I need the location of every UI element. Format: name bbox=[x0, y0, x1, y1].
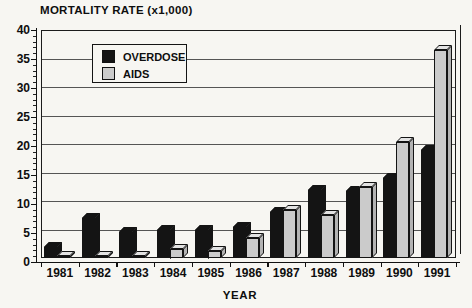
aids-swatch bbox=[102, 67, 115, 80]
bar-overdose-1982 bbox=[82, 218, 95, 258]
y-tick-label-30: 30 bbox=[4, 81, 30, 95]
bar-aids-1988 bbox=[321, 215, 334, 258]
bar-aids-1985 bbox=[208, 251, 221, 258]
y-minor-tick bbox=[33, 221, 36, 222]
y-minor-tick bbox=[33, 169, 36, 170]
y-minor-tick bbox=[33, 36, 36, 37]
bar-overdose-1986 bbox=[233, 227, 246, 258]
bar-front-face bbox=[132, 256, 145, 258]
y-major-tick-0 bbox=[31, 262, 36, 263]
x-tick-label-1982: 1982 bbox=[78, 267, 118, 280]
bar-side-face bbox=[296, 205, 301, 258]
y-minor-tick bbox=[33, 140, 36, 141]
bar-front-face bbox=[396, 142, 409, 258]
x-tick-label-1991: 1991 bbox=[417, 267, 457, 280]
y-minor-tick bbox=[33, 192, 36, 193]
bar-front-face bbox=[57, 256, 70, 258]
bar-front-face bbox=[208, 251, 221, 258]
x-tick-label-1981: 1981 bbox=[40, 267, 80, 280]
bar-side-face bbox=[447, 45, 452, 258]
y-minor-tick bbox=[33, 250, 36, 251]
y-minor-tick bbox=[33, 105, 36, 106]
x-tick-label-1983: 1983 bbox=[115, 267, 155, 280]
plot-back-right-edge bbox=[460, 25, 461, 254]
bar-front-face bbox=[359, 187, 372, 258]
bar-aids-1989 bbox=[359, 187, 372, 258]
y-tick-label-15: 15 bbox=[4, 168, 30, 182]
y-minor-tick bbox=[33, 181, 36, 182]
x-tick-label-1987: 1987 bbox=[266, 267, 306, 280]
bar-overdose-1981 bbox=[44, 247, 57, 258]
legend-label-aids: AIDS bbox=[123, 68, 149, 80]
y-minor-tick bbox=[33, 123, 36, 124]
bar-aids-1991 bbox=[434, 50, 447, 258]
y-major-tick-35 bbox=[31, 59, 36, 60]
y-minor-tick bbox=[33, 245, 36, 246]
bar-aids-1981 bbox=[57, 256, 70, 258]
y-minor-tick bbox=[33, 71, 36, 72]
y-major-tick-30 bbox=[31, 88, 36, 89]
bar-front-face bbox=[346, 191, 359, 258]
bar-side-face bbox=[372, 182, 377, 258]
y-major-tick-40 bbox=[31, 30, 36, 31]
y-minor-tick bbox=[33, 65, 36, 66]
overdose-swatch bbox=[102, 50, 115, 63]
y-minor-tick bbox=[33, 42, 36, 43]
y-minor-tick bbox=[33, 82, 36, 83]
y-tick-label-0: 0 bbox=[4, 255, 30, 269]
gridline-20 bbox=[42, 144, 455, 145]
bar-aids-1990 bbox=[396, 142, 409, 258]
bar-front-face bbox=[157, 230, 170, 259]
legend: OVERDOSE AIDS bbox=[92, 44, 187, 83]
y-major-tick-25 bbox=[31, 117, 36, 118]
y-tick-label-40: 40 bbox=[4, 23, 30, 37]
plot-area: 0510152025303540198119821983198419851986… bbox=[0, 0, 472, 308]
x-tick-label-1989: 1989 bbox=[342, 267, 382, 280]
y-minor-tick bbox=[33, 111, 36, 112]
bar-front-face bbox=[170, 249, 183, 258]
y-minor-tick bbox=[33, 163, 36, 164]
bar-overdose-1989 bbox=[346, 191, 359, 258]
legend-item-aids: AIDS bbox=[102, 66, 186, 81]
x-tick-label-1985: 1985 bbox=[191, 267, 231, 280]
bar-front-face bbox=[246, 238, 259, 258]
bar-front-face bbox=[82, 218, 95, 258]
x-axis-title: YEAR bbox=[190, 289, 290, 301]
bar-front-face bbox=[383, 178, 396, 258]
y-minor-tick bbox=[33, 129, 36, 130]
bar-overdose-1991 bbox=[421, 150, 434, 258]
bar-overdose-1984 bbox=[157, 230, 170, 259]
bar-overdose-1983 bbox=[119, 232, 132, 258]
bar-aids-1986 bbox=[246, 238, 259, 258]
mortality-bar-chart: MORTALITY RATE (x1,000) 0510152025303540… bbox=[0, 0, 472, 308]
y-minor-tick bbox=[33, 47, 36, 48]
bar-front-face bbox=[308, 190, 321, 258]
bar-front-face bbox=[283, 210, 296, 258]
y-tick-label-10: 10 bbox=[4, 197, 30, 211]
bar-front-face bbox=[233, 227, 246, 258]
bar-aids-1984 bbox=[170, 249, 183, 258]
bar-aids-1987 bbox=[283, 210, 296, 258]
bar-front-face bbox=[421, 150, 434, 258]
bar-side-face bbox=[409, 137, 414, 258]
gridline-25 bbox=[42, 116, 455, 117]
bar-front-face bbox=[270, 212, 283, 258]
y-minor-tick bbox=[33, 227, 36, 228]
bar-front-face bbox=[434, 50, 447, 258]
y-minor-tick bbox=[33, 134, 36, 135]
gridline-30 bbox=[42, 87, 455, 88]
bar-overdose-1990 bbox=[383, 178, 396, 258]
bar-overdose-1987 bbox=[270, 212, 283, 258]
y-major-tick-15 bbox=[31, 175, 36, 176]
y-minor-tick bbox=[33, 152, 36, 153]
bar-front-face bbox=[95, 256, 108, 258]
bar-front-face bbox=[119, 232, 132, 258]
y-tick-label-5: 5 bbox=[4, 226, 30, 240]
x-tick-label-1984: 1984 bbox=[153, 267, 193, 280]
x-tick-label-1988: 1988 bbox=[304, 267, 344, 280]
bar-overdose-1988 bbox=[308, 190, 321, 258]
bar-front-face bbox=[44, 247, 57, 258]
y-axis-line bbox=[36, 28, 37, 263]
y-minor-tick bbox=[33, 53, 36, 54]
y-tick-label-20: 20 bbox=[4, 139, 30, 153]
